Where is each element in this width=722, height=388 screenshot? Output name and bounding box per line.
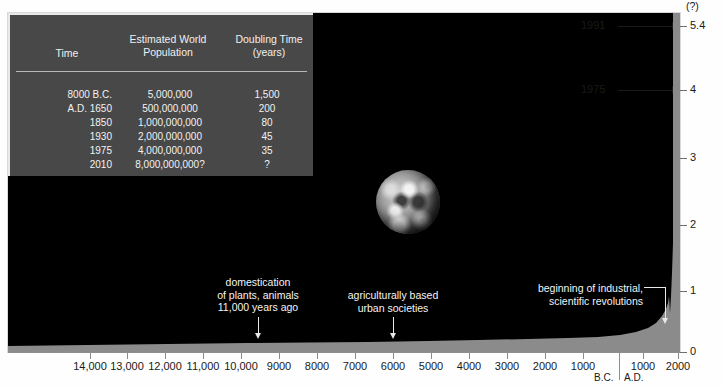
table-header-doubling-line1: Doubling Time [226, 33, 312, 46]
x-tick [279, 352, 280, 359]
x-tick-label: 1000 [571, 360, 595, 372]
annotation-line: urban societies [303, 302, 483, 315]
annotation-arrow-head-icon [662, 318, 668, 324]
cell-population: 2,000,000,000 [116, 130, 224, 143]
y-tick-label: 2 [690, 218, 696, 230]
x-tick [203, 352, 204, 359]
y-tick-label: 4 [690, 83, 696, 95]
table-header-time: Time [24, 47, 110, 60]
callout-arrow-1991-shaft [618, 26, 674, 27]
y-tick-label: 5.4 [690, 19, 705, 31]
annotation-arrow-shaft [258, 317, 259, 334]
x-tick [507, 352, 508, 359]
x-tick [241, 352, 242, 359]
y-tick [680, 352, 687, 353]
table-header-row: Time Estimated World Population Doubling… [10, 15, 313, 71]
x-tick-label: 14,000 [73, 360, 107, 372]
x-tick [643, 352, 644, 359]
table-header-population-line1: Estimated World [110, 33, 226, 46]
cell-doubling: ? [224, 158, 310, 171]
x-tick [469, 352, 470, 359]
annotation-line: beginning of industrial, [468, 282, 643, 295]
era-label-bc: B.C. [594, 372, 613, 383]
annotation-line: scientific revolutions [468, 295, 643, 308]
y-axis-uncertainty-note: (?) [686, 0, 699, 12]
annotation-arrow-shaft [393, 317, 394, 334]
x-tick-label: 13,000 [110, 360, 144, 372]
y-tick-label: 3 [690, 151, 696, 163]
cell-doubling: 200 [224, 102, 310, 115]
y-tick [680, 26, 687, 27]
table-header-divider [16, 71, 307, 72]
x-tick-label: 5000 [419, 360, 443, 372]
y-tick [680, 291, 687, 292]
x-tick-label: 1000 [631, 360, 655, 372]
population-data-table: Time Estimated World Population Doubling… [8, 13, 313, 176]
x-tick [165, 352, 166, 359]
x-tick-label: 12,000 [148, 360, 182, 372]
y-tick-label: 1 [690, 284, 696, 296]
table-row: 8000 B.C. 5,000,000 1,500 [10, 88, 315, 101]
annotation-arrow-head-icon [390, 333, 396, 339]
x-tick-label: 10,000 [224, 360, 258, 372]
x-tick-label: 6000 [381, 360, 405, 372]
x-tick [431, 352, 432, 359]
table-row: 1975 4,000,000,000 35 [10, 144, 315, 157]
table-header-population: Estimated World Population [110, 33, 226, 58]
table-row: 1930 2,000,000,000 45 [10, 130, 315, 143]
table-row: 1850 1,000,000,000 80 [10, 116, 315, 129]
cell-time: 2010 [20, 158, 112, 171]
earth-globe-photo [376, 170, 440, 234]
annotation-industrial-revolution: beginning of industrial, scientific revo… [468, 282, 643, 307]
y-tick [680, 158, 687, 159]
era-label-ad: A.D. [624, 372, 643, 383]
callout-label-1975: 1975 [581, 83, 605, 95]
x-tick-label: 9000 [267, 360, 291, 372]
cell-population: 1,000,000,000 [116, 116, 224, 129]
annotation-urban-societies: agriculturally based urban societies [303, 289, 483, 314]
cell-doubling: 45 [224, 130, 310, 143]
x-tick [90, 352, 91, 359]
annotation-line: domestication [178, 276, 338, 289]
cell-population: 8,000,000,000? [116, 158, 224, 171]
x-tick [317, 352, 318, 359]
x-tick [127, 352, 128, 359]
x-tick-label: 2000 [533, 360, 557, 372]
x-tick-label: 8000 [305, 360, 329, 372]
cell-time: 1975 [20, 144, 112, 157]
table-row: 2010 8,000,000,000? ? [10, 158, 315, 171]
x-axis-line [8, 352, 680, 353]
cell-doubling: 1,500 [224, 88, 310, 101]
cell-time: 1850 [20, 116, 112, 129]
cell-time: 1930 [20, 130, 112, 143]
table-row: A.D. 1650 500,000,000 200 [10, 102, 315, 115]
cell-population: 4,000,000,000 [116, 144, 224, 157]
annotation-arrow-head-icon [255, 333, 261, 339]
x-tick [583, 352, 584, 359]
y-axis-bar [673, 13, 680, 352]
x-tick [355, 352, 356, 359]
cell-population: 5,000,000 [116, 88, 224, 101]
population-growth-figure: domestication of plants, animals 11,000 … [0, 0, 722, 388]
x-tick-label: 4000 [457, 360, 481, 372]
annotation-line: agriculturally based [303, 289, 483, 302]
cell-doubling: 35 [224, 144, 310, 157]
cell-time: 8000 B.C. [20, 88, 112, 101]
x-tick [678, 352, 679, 359]
table-header-doubling: Doubling Time (years) [226, 33, 312, 58]
x-tick [545, 352, 546, 359]
cell-population: 500,000,000 [116, 102, 224, 115]
x-tick-label: 2000 [666, 360, 690, 372]
x-tick-label: 3000 [495, 360, 519, 372]
table-header-population-line2: Population [110, 46, 226, 59]
y-tick-label: 0 [690, 345, 696, 357]
y-tick [680, 90, 687, 91]
x-tick-label: 11,000 [187, 360, 220, 372]
cell-doubling: 80 [224, 116, 310, 129]
table-header-doubling-line2: (years) [226, 46, 312, 59]
callout-arrow-1975-shaft [618, 90, 674, 91]
x-tick [393, 352, 394, 359]
x-tick-label: 7000 [343, 360, 367, 372]
callout-label-1991: 1991 [581, 19, 605, 31]
cell-time: A.D. 1650 [20, 102, 112, 115]
